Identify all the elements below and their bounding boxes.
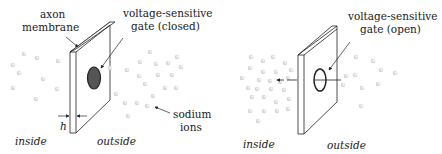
ions-label-1: sodium: [173, 108, 212, 120]
sodium-ions-inside: [11, 52, 61, 102]
gate-label-2: gate (closed): [131, 20, 200, 32]
outside-label: outside: [327, 139, 366, 151]
panel-open: voltage-sensitive gate (open) inside out…: [240, 10, 438, 151]
gate-label-2: gate (open): [360, 23, 421, 35]
thickness-label: h: [60, 120, 67, 132]
sodium-ions-outside: [108, 50, 184, 119]
sodium-ions-inside: [240, 55, 294, 124]
membrane-label-1: axon: [40, 8, 66, 20]
inside-label: inside: [15, 135, 47, 147]
sodium-ions-outside: [341, 55, 398, 109]
membrane-label-2: membrane: [22, 21, 79, 33]
gate-label-1: voltage-sensitive: [122, 7, 212, 19]
ions-label-2: ions: [180, 121, 202, 133]
panel-closed: axon membrane voltage-sensitive gate (cl…: [11, 7, 213, 147]
inside-label: inside: [243, 138, 275, 150]
outside-label: outside: [97, 135, 136, 147]
membrane-leader: [66, 37, 78, 47]
ions-leader: [155, 107, 170, 113]
gate-closed-icon: [88, 67, 101, 89]
gate-label-1: voltage-sensitive: [347, 10, 437, 22]
sodium-channel-diagram: axon membrane voltage-sensitive gate (cl…: [0, 0, 442, 154]
